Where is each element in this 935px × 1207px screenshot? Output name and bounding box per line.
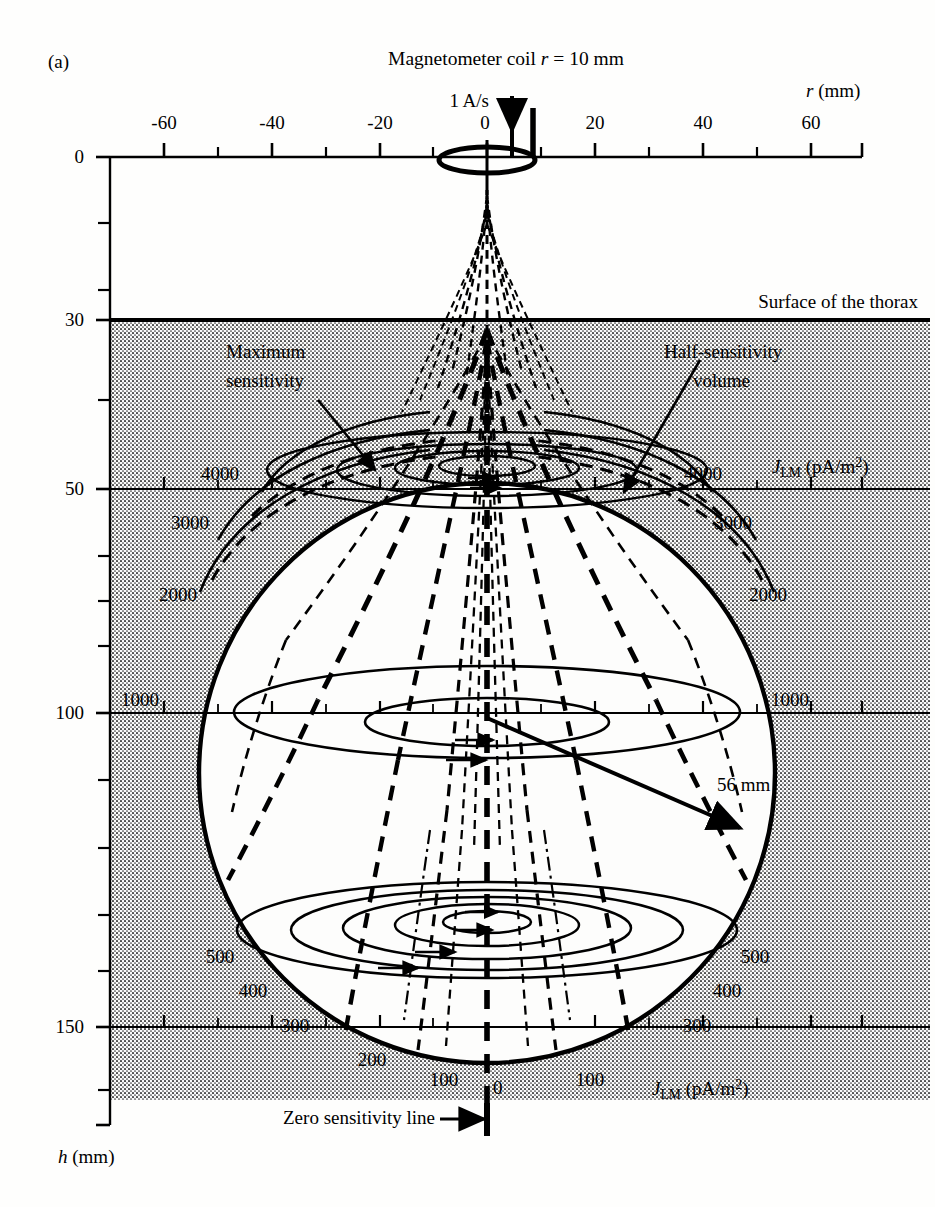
center-zero-label: 0: [493, 1078, 503, 1097]
x-axis-title-symbol: r: [806, 80, 813, 101]
y-tick-label: 0: [75, 147, 85, 166]
unit-label-paren: (pA/m: [686, 1078, 736, 1099]
figure-container: (a) Magnetometer coil r = 10 mm 1 A/s r …: [0, 0, 935, 1207]
x-tick-label: 20: [586, 113, 605, 132]
current-rate-label: 1 A/s: [449, 91, 489, 110]
x-axis-title-unit: (mm): [818, 80, 860, 101]
contour-label: 300: [281, 1016, 310, 1035]
x-axis-title: r (mm): [806, 81, 860, 100]
contour-label: 200: [358, 1050, 387, 1069]
radius-label: 56 mm: [717, 775, 770, 794]
half-volume-label-line2: volume: [693, 371, 750, 390]
figure-title-rest: = 10 mm: [553, 48, 624, 69]
contour-label: 100: [576, 1070, 605, 1089]
contour-label: 4000: [201, 464, 239, 483]
contour-label: 3000: [171, 513, 209, 532]
x-tick-label: 0: [480, 113, 490, 132]
y-axis-ticks: [96, 157, 110, 1125]
unit-label-close: ): [862, 456, 868, 477]
figure-title-r: r: [541, 48, 549, 69]
contour-label: 400: [713, 981, 742, 1000]
y-tick-label: 50: [65, 479, 84, 498]
y-axis-title: h (mm): [58, 1147, 114, 1166]
contour-label: 4000: [684, 464, 722, 483]
contour-label: 400: [239, 981, 268, 1000]
max-sensitivity-label-line1: Maximum: [226, 342, 305, 361]
contour-label: 3000: [714, 513, 752, 532]
figure-title-text: Magnetometer coil: [388, 48, 536, 69]
x-tick-label: -20: [367, 113, 392, 132]
unit-label-lower: JLM (pA/m2): [652, 1078, 748, 1101]
contour-label: 2000: [159, 585, 197, 604]
contour-label: 1000: [771, 690, 809, 709]
figure-graphics: [0, 0, 935, 1207]
unit-label-subscript: LM: [660, 1087, 681, 1102]
unit-label-upper: JLM (pA/m2): [772, 456, 868, 479]
contour-label: 500: [741, 947, 770, 966]
x-tick-label: -60: [151, 113, 176, 132]
y-axis-title-unit: (mm): [72, 1146, 114, 1167]
thorax-surface-label: Surface of the thorax: [758, 292, 918, 311]
contour-label: 100: [430, 1070, 459, 1089]
y-tick-label: 30: [65, 310, 84, 329]
panel-label: (a): [48, 52, 69, 71]
y-tick-label: 100: [56, 703, 85, 722]
unit-label-paren: (pA/m: [806, 456, 856, 477]
y-axis-title-symbol: h: [58, 1146, 68, 1167]
zero-sensitivity-label: Zero sensitivity line: [283, 1108, 435, 1127]
contour-label: 2000: [749, 585, 787, 604]
contour-label: 300: [683, 1016, 712, 1035]
half-volume-label-line1: Half-sensitivity: [664, 342, 782, 361]
y-tick-label: 150: [56, 1017, 85, 1036]
zero-sensitivity-leader: [440, 1103, 487, 1136]
figure-title: Magnetometer coil r = 10 mm: [388, 49, 624, 69]
unit-label-close: ): [742, 1078, 748, 1099]
unit-label-subscript: LM: [780, 465, 801, 480]
x-tick-label: 60: [802, 113, 821, 132]
max-sensitivity-label-line2: sensitivity: [226, 371, 304, 390]
contour-label: 1000: [121, 690, 159, 709]
x-tick-label: 40: [694, 113, 713, 132]
contour-label: 500: [206, 947, 235, 966]
x-tick-label: -40: [259, 113, 284, 132]
